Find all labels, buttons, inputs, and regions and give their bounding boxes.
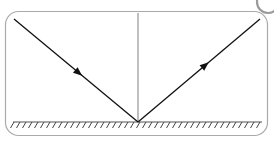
hatch-mark xyxy=(245,122,249,128)
hatch-mark xyxy=(125,122,129,128)
reflection-diagram xyxy=(0,0,274,141)
hatch-mark xyxy=(23,122,27,128)
hatch-mark xyxy=(221,122,225,128)
hatch-mark xyxy=(197,122,201,128)
hatch-mark xyxy=(161,122,165,128)
hatch-mark xyxy=(167,122,171,128)
reflected-ray-line xyxy=(138,19,260,122)
hatch-mark xyxy=(233,122,237,128)
hatch-mark xyxy=(107,122,111,128)
hatch-mark xyxy=(179,122,183,128)
hatch-mark xyxy=(77,122,81,128)
hatch-mark xyxy=(191,122,195,128)
hatch-mark xyxy=(71,122,75,128)
hatch-mark xyxy=(47,122,51,128)
diagram-canvas xyxy=(0,0,274,141)
hatch-mark xyxy=(173,122,177,128)
hatch-mark xyxy=(65,122,69,128)
hatch-mark xyxy=(83,122,87,128)
hatch-mark xyxy=(185,122,189,128)
hatch-mark xyxy=(209,122,213,128)
hatch-mark xyxy=(143,122,147,128)
hatch-mark xyxy=(41,122,45,128)
hatch-mark xyxy=(227,122,231,128)
hatch-mark xyxy=(95,122,99,128)
hatch-mark xyxy=(257,122,261,128)
hatch-mark xyxy=(17,122,21,128)
hatch-mark xyxy=(101,122,105,128)
hatch-mark xyxy=(251,122,255,128)
hatch-mark xyxy=(239,122,243,128)
hatch-mark xyxy=(131,122,135,128)
hatch-mark xyxy=(113,122,117,128)
hatch-mark xyxy=(53,122,57,128)
surface-hatching xyxy=(11,122,261,128)
hatch-mark xyxy=(29,122,33,128)
hatch-mark xyxy=(203,122,207,128)
diagram-frame xyxy=(6,12,268,136)
hatch-mark xyxy=(89,122,93,128)
hatch-mark xyxy=(59,122,63,128)
scan-artifact-arc-icon xyxy=(257,0,274,13)
hatch-mark xyxy=(215,122,219,128)
hatch-mark xyxy=(137,122,141,128)
hatch-mark xyxy=(119,122,123,128)
hatch-mark xyxy=(149,122,153,128)
hatch-mark xyxy=(35,122,39,128)
hatch-mark xyxy=(11,122,15,128)
hatch-mark xyxy=(155,122,159,128)
